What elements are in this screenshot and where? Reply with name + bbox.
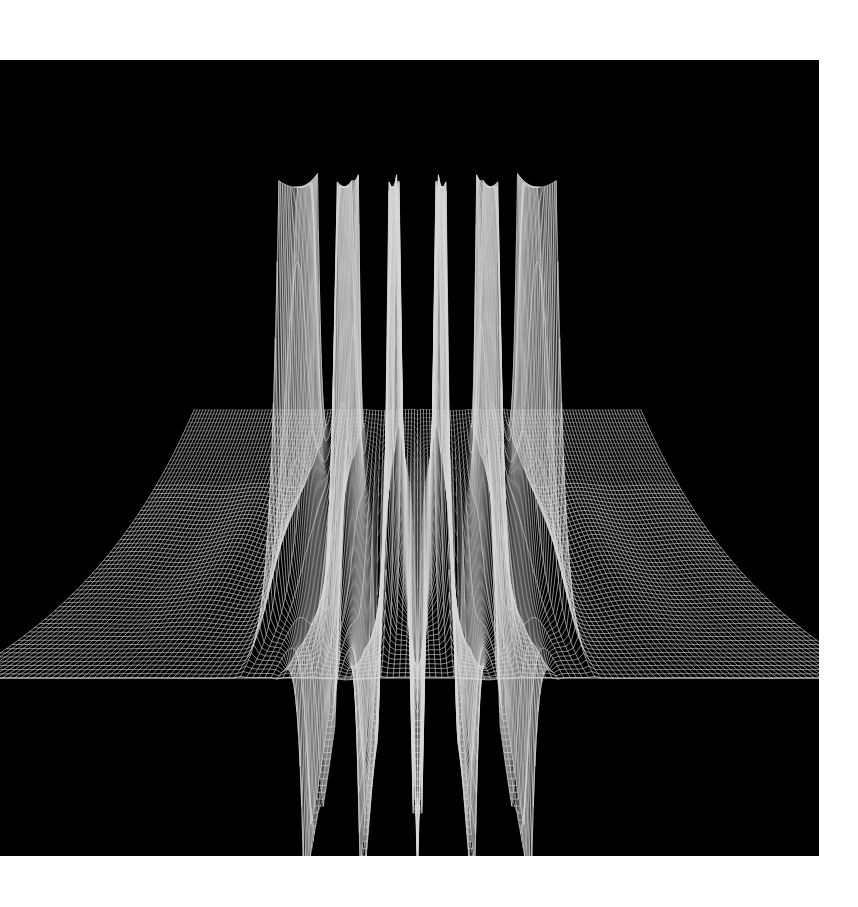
mesh-line xyxy=(608,410,808,678)
mesh-line xyxy=(626,410,819,678)
mesh-line xyxy=(602,410,796,678)
figure-root xyxy=(0,0,858,907)
mesh-line xyxy=(39,410,233,678)
mesh-line xyxy=(0,410,197,678)
mesh-line xyxy=(33,410,230,678)
mesh-line xyxy=(0,410,200,678)
mesh-line xyxy=(629,410,819,678)
wireframe-mesh-svg xyxy=(0,60,819,856)
mesh-line xyxy=(632,410,819,678)
mesh-line xyxy=(623,410,819,678)
wireframe-surface-plot-panel xyxy=(0,60,819,856)
mesh-line xyxy=(27,410,227,678)
mesh-line-group xyxy=(0,174,819,857)
mesh-line xyxy=(2,410,215,678)
mesh-line xyxy=(635,410,819,678)
mesh-line xyxy=(605,410,802,678)
